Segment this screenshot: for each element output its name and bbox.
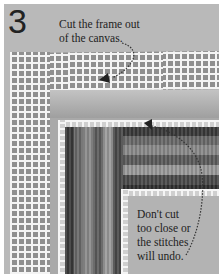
arrow-top-icon [99,43,134,83]
pointer-arrows [0,0,223,278]
arrow-bottom-icon [144,119,203,255]
